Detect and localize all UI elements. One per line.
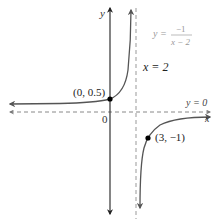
point-label-3-neg1: (3, −1) [155, 131, 185, 144]
vertical-asymptote-label: x = 2 [142, 60, 168, 74]
point-label-0-0.5: (0, 0.5) [73, 86, 105, 99]
equation-denominator: x − 2 [170, 37, 191, 47]
point-0-0.5 [107, 96, 112, 101]
point-3-neg1 [145, 135, 150, 140]
x-axis-label: x [204, 113, 210, 124]
curve-left-branch [10, 10, 131, 104]
equation-lhs: y = [152, 28, 167, 39]
horizontal-asymptote-label: y = 0 [185, 97, 207, 108]
origin-label: 0 [102, 113, 108, 125]
equation: y = −1 x − 2 [152, 24, 192, 47]
hyperbola-graph: y x 0 (0, 0.5) (3, −1) x = 2 y = 0 y = −… [0, 0, 216, 219]
y-axis-label: y [99, 7, 105, 19]
equation-numerator: −1 [176, 24, 186, 34]
